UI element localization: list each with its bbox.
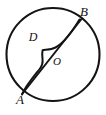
label-d: D (28, 30, 38, 44)
label-a: A (15, 92, 24, 107)
geometry-figure: A B D O (0, 0, 106, 115)
circle-diagram-svg: A B D O (0, 0, 106, 115)
label-b: B (80, 4, 88, 19)
label-o: O (53, 55, 61, 67)
